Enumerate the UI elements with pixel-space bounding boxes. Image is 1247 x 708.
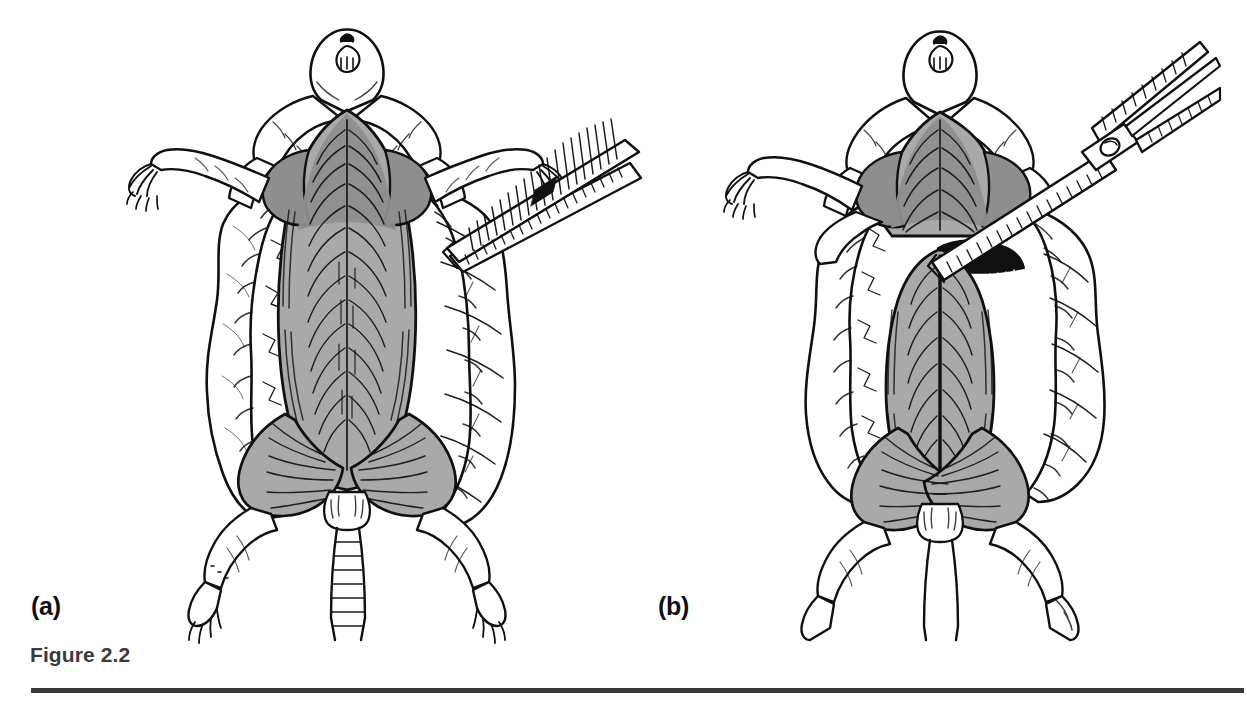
figure-caption: Figure 2.2 <box>30 643 130 667</box>
hindlimb-left <box>188 508 277 643</box>
forceps-icon <box>443 119 641 272</box>
hindlimb-right <box>417 508 506 643</box>
rodent-head-b <box>903 32 976 115</box>
rodent-dissection-illustration-b <box>700 0 1220 640</box>
figure-panel-b <box>700 0 1220 640</box>
tail-b <box>917 504 963 640</box>
hindlimb-right-b <box>990 522 1079 640</box>
skin-flap-right-b <box>1022 210 1105 502</box>
figure-panel-a <box>45 0 645 640</box>
panel-label-a: (a) <box>31 592 61 621</box>
rodent-dissection-illustration-a <box>45 0 645 640</box>
tail <box>324 492 370 640</box>
abdominal-musculature <box>238 110 455 516</box>
figure-page: (a) (b) Figure 2.2 <box>0 0 1247 708</box>
panel-label-b: (b) <box>658 592 689 621</box>
caption-rule <box>31 688 1244 693</box>
rodent-head <box>310 30 383 113</box>
hindlimb-left-b <box>801 522 890 640</box>
